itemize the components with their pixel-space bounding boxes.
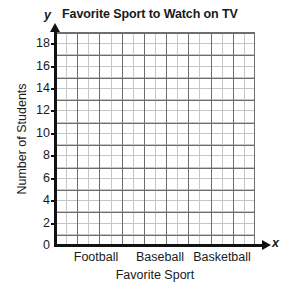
x-axis-title: Favorite Sport: [55, 268, 255, 282]
y-tick-label-6: 6: [43, 172, 50, 184]
x-category-label-basketball: Basketball: [162, 250, 282, 264]
y-tick-mark-10: [51, 133, 56, 135]
y-tick-mark-2: [51, 223, 56, 225]
y-tick-mark-8: [51, 155, 56, 157]
y-tick-label-8: 8: [43, 149, 50, 161]
y-tick-label-4: 4: [43, 194, 50, 206]
y-tick-mark-16: [51, 66, 56, 68]
y-tick-label-12: 12: [36, 104, 50, 116]
y-tick-label-10: 10: [36, 127, 50, 139]
y-tick-label-18: 18: [36, 37, 50, 49]
chart-figure: Favorite Sport to Watch on TV y x 024681…: [0, 0, 287, 299]
y-tick-label-2: 2: [43, 217, 50, 229]
y-tick-mark-12: [51, 110, 56, 112]
y-tick-mark-4: [51, 200, 56, 202]
y-tick-label-16: 16: [36, 60, 50, 72]
y-axis-title: Number of Students: [15, 44, 29, 234]
y-tick-mark-18: [51, 43, 56, 45]
y-tick-mark-14: [51, 88, 56, 90]
y-tick-mark-6: [51, 178, 56, 180]
y-tick-label-14: 14: [36, 82, 50, 94]
